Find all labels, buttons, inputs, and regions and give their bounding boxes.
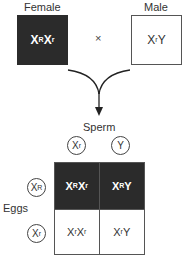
allele-base: X — [112, 180, 119, 192]
punnett-cell: XRXr — [55, 163, 100, 209]
punnett-square: XRXr XRY XrXr XrY — [54, 162, 145, 255]
punnett-cell: XrXr — [55, 209, 100, 254]
allele-base: X — [66, 180, 73, 192]
punnett-cell: XrY — [100, 209, 145, 254]
allele-base: X — [67, 226, 74, 238]
allele-base: Y — [123, 226, 130, 238]
allele-base: Y — [124, 180, 131, 192]
eggs-label: Eggs — [3, 202, 28, 214]
allele-base: X — [113, 226, 120, 238]
egg-allele-circle: Xr — [27, 224, 46, 243]
allele-base: Y — [117, 140, 124, 151]
punnett-cell: XRY — [100, 163, 145, 209]
egg-allele-circle: XR — [27, 178, 46, 197]
sperm-allele-circle: Xr — [67, 136, 86, 155]
sperm-allele-circle: Y — [111, 136, 130, 155]
allele-base: X — [32, 228, 39, 239]
allele-base: X — [77, 226, 84, 238]
allele-base: X — [72, 140, 79, 151]
allele-base: X — [31, 182, 38, 193]
sperm-label: Sperm — [83, 121, 115, 133]
allele-base: X — [78, 180, 85, 192]
